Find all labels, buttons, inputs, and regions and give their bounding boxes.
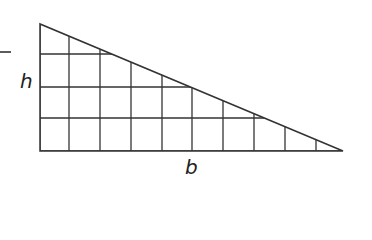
base-label: b [185,157,198,177]
height-label: h [20,71,33,91]
